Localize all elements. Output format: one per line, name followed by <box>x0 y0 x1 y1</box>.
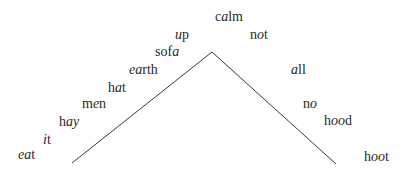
consonant-letters: rth <box>142 62 158 77</box>
consonant-letters: t <box>47 132 51 147</box>
consonant-letters: t <box>264 27 268 42</box>
consonant-letters: m <box>82 96 93 111</box>
consonant-letters: h <box>324 113 331 128</box>
vowel-triangle-lines <box>0 0 409 174</box>
vowel-letters: oo <box>371 149 385 164</box>
word-up: up <box>175 28 189 42</box>
vowel-letters: ea <box>129 62 142 77</box>
consonant-letters: h <box>108 80 115 95</box>
consonant-letters: ll <box>298 62 306 77</box>
consonant-letters: t <box>385 149 389 164</box>
vowel-diagram: calmupnotsofaearthallhatmennohoodhayitea… <box>0 0 409 174</box>
consonant-letters: h <box>364 149 371 164</box>
word-hay: hay <box>59 115 79 129</box>
consonant-letters: n <box>303 96 310 111</box>
vowel-letters: a <box>172 44 179 59</box>
word-hat: hat <box>108 81 126 95</box>
word-it: it <box>43 133 51 147</box>
consonant-letters: sof <box>155 44 172 59</box>
consonant-letters: d <box>345 113 352 128</box>
word-all: all <box>291 63 306 77</box>
word-earth: earth <box>129 63 158 77</box>
word-not: not <box>250 28 268 42</box>
word-men: men <box>82 97 106 111</box>
word-sofa: sofa <box>155 45 179 59</box>
vowel-letters: o <box>257 27 264 42</box>
consonant-letters: p <box>182 27 189 42</box>
consonant-letters: n <box>250 27 257 42</box>
vowel-letters: ay <box>66 114 79 129</box>
consonant-letters: n <box>99 96 106 111</box>
vowel-letters: oo <box>331 113 345 128</box>
vowel-letters: a <box>115 80 122 95</box>
consonant-letters: h <box>59 114 66 129</box>
vowel-letters: o <box>310 96 317 111</box>
word-no: no <box>303 97 317 111</box>
vowel-letters: ea <box>18 147 31 162</box>
vowel-letters: a <box>291 62 298 77</box>
word-hoot: hoot <box>364 150 389 164</box>
vowel-letters: u <box>175 27 182 42</box>
word-calm: calm <box>215 10 243 24</box>
consonant-letters: t <box>31 147 35 162</box>
word-hood: hood <box>324 114 352 128</box>
word-eat: eat <box>18 148 35 162</box>
consonant-letters: lm <box>228 9 243 24</box>
consonant-letters: t <box>122 80 126 95</box>
